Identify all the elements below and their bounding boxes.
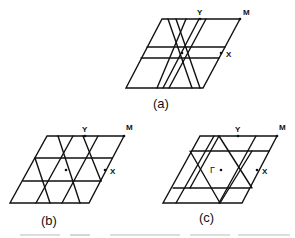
panel-c-m-point — [276, 135, 279, 138]
panel-b: Y M X (b) — [10, 123, 133, 228]
panel-b-m-point — [123, 135, 126, 138]
panel-c-gamma-point — [220, 169, 223, 172]
panel-a-y-label: Y — [197, 8, 203, 17]
panel-b-caption: (b) — [41, 213, 57, 228]
panel-c-star-edge — [190, 136, 219, 188]
panel-c-m-label: M — [279, 123, 286, 132]
panel-c-x-point — [256, 169, 259, 172]
panel-a-x-point — [220, 52, 223, 55]
panel-a-gamma-point — [181, 52, 184, 55]
panel-c-gamma-label: Γ — [210, 165, 215, 175]
panel-a-x-label: X — [226, 50, 232, 59]
panel-c: Y M X Γ (c) — [163, 123, 286, 225]
panel-c-y-label: Y — [235, 125, 241, 134]
panel-a-caption: (a) — [153, 96, 169, 111]
panel-b-x-label: X — [110, 167, 116, 176]
panel-c-y-point — [237, 135, 240, 138]
panel-b-gamma-point — [65, 169, 68, 172]
panel-b-x-point — [104, 169, 107, 172]
panel-b-y-point — [84, 135, 87, 138]
brillouin-zone-figure: Y M X (a) Y M X (b) Y — [0, 0, 295, 238]
panel-c-star-edge — [219, 136, 252, 188]
panel-a-m-label: M — [243, 8, 250, 17]
panel-c-x-label: X — [262, 167, 268, 176]
panel-a: Y M X (a) — [126, 8, 250, 111]
panel-c-caption: (c) — [199, 210, 214, 225]
panel-b-m-label: M — [126, 123, 133, 132]
panel-b-y-label: Y — [82, 125, 88, 134]
panel-c-star-edge — [190, 151, 220, 203]
panel-a-m-point — [239, 18, 242, 21]
panel-c-star-edge — [220, 151, 252, 203]
panel-a-y-point — [199, 18, 202, 21]
panel-b-diagonal — [58, 136, 80, 203]
